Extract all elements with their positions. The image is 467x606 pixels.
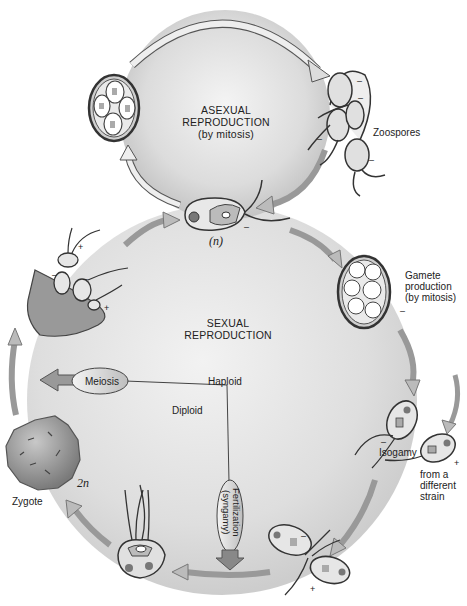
gamete-production-line1: Gamete (405, 270, 441, 281)
zygote-ploidy-label: 2n (77, 478, 89, 489)
haploid-region-label: Haploid (208, 376, 242, 387)
sexual-label-line1: SEXUAL (207, 317, 250, 329)
zoospore-minus-sign: – (317, 134, 322, 144)
arrow-zygote-up (8, 328, 22, 415)
zoospore-minus-sign: – (369, 155, 374, 165)
fertilization-label: Fertilization (syngamy) (221, 488, 241, 537)
gamete-production-line3: (by mitosis) (405, 292, 456, 303)
fusion-plus-sign: + (310, 584, 315, 594)
germinating-minus-sign: – (83, 274, 88, 284)
diploid-region-label: Diploid (172, 405, 203, 416)
zoospores-label: Zoospores (373, 127, 420, 138)
isogamy-plus-sign: + (454, 458, 459, 468)
life-cycle-diagram: ASEXUAL REPRODUCTION (by mitosis) Zoospo… (0, 0, 467, 606)
zoospore-minus-sign: – (358, 93, 363, 103)
sexual-label-line2: REPRODUCTION (184, 329, 272, 341)
haploid-ploidy-label: (n) (209, 236, 223, 247)
asexual-mother-cell (89, 75, 139, 141)
germinating-plus-sign: + (78, 242, 83, 252)
arrow-to-plus-gamete (442, 375, 458, 434)
asexual-label-line2: REPRODUCTION (182, 116, 270, 128)
gamete-production-cell (338, 256, 390, 328)
germinating-minus-sign: – (52, 270, 57, 280)
meiosis-label: Meiosis (85, 376, 119, 387)
from-strain-line2: different (420, 480, 456, 491)
zygote-label: Zygote (12, 496, 43, 507)
zoospore-minus-sign: – (357, 76, 362, 86)
from-strain-line3: strain (420, 491, 444, 502)
fertilization-label-line1: Fertilization (231, 488, 241, 537)
germinating-plus-sign: + (104, 303, 109, 313)
fusion-minus-sign: – (301, 531, 306, 541)
isogamy-label: Isogamy (379, 447, 417, 458)
isogamy-minus-sign: – (381, 437, 386, 447)
haploid-minus-sign: – (244, 222, 249, 232)
asexual-label-line1: ASEXUAL (201, 104, 251, 116)
gamete-production-line2: production (405, 281, 452, 292)
asexual-label-line3: (by mitosis) (198, 128, 254, 140)
gamete-production-minus-sign: – (400, 306, 405, 316)
fertilization-label-line2: (syngamy) (221, 488, 231, 537)
zygote (6, 416, 80, 490)
from-strain-line1: from a (420, 469, 448, 480)
